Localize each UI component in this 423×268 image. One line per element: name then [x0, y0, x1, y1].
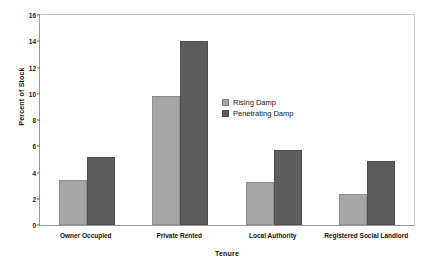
- y-axis-title: Percent of Stock: [18, 37, 25, 157]
- bar-rising-damp: [339, 194, 367, 226]
- x-axis-title: Tenure: [39, 250, 415, 257]
- bar-chart: Percent of Stock 0246810121416 Owner Occ…: [0, 0, 423, 268]
- legend-swatch-penetrating-damp-icon: [222, 110, 229, 117]
- bars-layer: [40, 15, 414, 225]
- legend-item[interactable]: Rising Damp: [222, 98, 293, 107]
- x-axis-tick-label: Registered Social Landlord: [324, 232, 408, 239]
- bar-group: [227, 15, 321, 225]
- bar-group: [321, 15, 415, 225]
- bar-penetrating-damp: [367, 161, 395, 225]
- bar-penetrating-damp: [180, 41, 208, 225]
- x-axis-tick-label: Local Authority: [249, 232, 296, 239]
- legend-label: Rising Damp: [233, 98, 276, 107]
- bar-rising-damp: [152, 96, 180, 225]
- legend-label: Penetrating Damp: [233, 109, 293, 118]
- bar-rising-damp: [246, 182, 274, 225]
- plot-area: 0246810121416: [39, 14, 415, 226]
- bar-rising-damp: [59, 180, 87, 225]
- legend-item[interactable]: Penetrating Damp: [222, 109, 293, 118]
- bar-penetrating-damp: [274, 150, 302, 225]
- x-axis-tick-label: Owner Occupied: [60, 232, 112, 239]
- x-axis-tick-label: Private Rented: [156, 232, 202, 239]
- legend-swatch-rising-damp-icon: [222, 99, 229, 106]
- chart-legend: Rising DampPenetrating Damp: [222, 98, 293, 118]
- bar-group: [134, 15, 228, 225]
- bar-penetrating-damp: [87, 157, 115, 225]
- bar-group: [40, 15, 134, 225]
